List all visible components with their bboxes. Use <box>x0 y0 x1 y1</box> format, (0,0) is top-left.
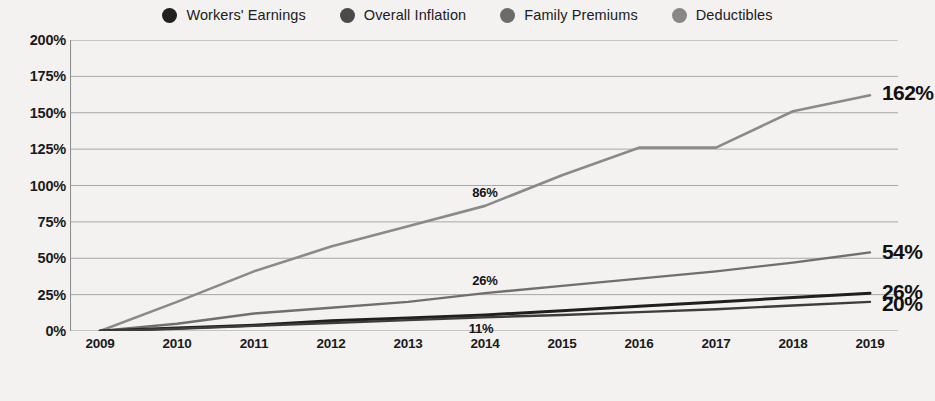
data-annotation: 26% <box>472 273 497 288</box>
x-axis-tick-label: 2011 <box>240 336 269 351</box>
legend-label: Workers' Earnings <box>186 7 305 23</box>
series-end-label: 20% <box>882 292 922 316</box>
y-axis-tick-label: 25% <box>4 287 66 303</box>
legend-dot-icon <box>672 8 687 23</box>
x-axis-tick-label: 2017 <box>701 336 730 351</box>
legend-label: Family Premiums <box>524 7 637 23</box>
x-axis-tick-label: 2016 <box>624 336 653 351</box>
legend-item-overall-inflation[interactable]: Overall Inflation <box>340 7 466 23</box>
data-annotation: 11% <box>469 320 494 335</box>
x-axis-tick-label: 2012 <box>316 336 345 351</box>
legend-item-workers-earnings[interactable]: Workers' Earnings <box>162 7 305 23</box>
series-line-family-premiums <box>100 252 870 331</box>
legend-dot-icon <box>340 8 355 23</box>
y-axis-tick-label: 175% <box>4 68 66 84</box>
chart-container: Workers' Earnings Overall Inflation Fami… <box>0 0 935 401</box>
x-axis-tick-label: 2014 <box>470 336 499 351</box>
legend-dot-icon <box>500 8 515 23</box>
series-end-label: 162% <box>882 81 933 105</box>
chart-legend: Workers' Earnings Overall Inflation Fami… <box>0 0 935 30</box>
x-axis-tick-label: 2019 <box>855 336 884 351</box>
legend-item-family-premiums[interactable]: Family Premiums <box>500 7 637 23</box>
y-axis-tick-label: 75% <box>4 214 66 230</box>
x-axis-tick-label: 2013 <box>393 336 422 351</box>
legend-item-deductibles[interactable]: Deductibles <box>672 7 773 23</box>
series-end-label: 54% <box>882 240 922 264</box>
x-axis-tick-label: 2018 <box>778 336 807 351</box>
legend-label: Overall Inflation <box>364 7 466 23</box>
data-annotation: 86% <box>472 184 497 199</box>
x-axis-tick-label: 2010 <box>162 336 191 351</box>
y-axis-tick-label: 50% <box>4 250 66 266</box>
y-axis-tick-label: 150% <box>4 105 66 121</box>
y-axis: 200%175%150%125%100%75%50%25%0% <box>0 0 66 401</box>
series-line-deductibles <box>100 95 870 331</box>
y-axis-tick-label: 200% <box>4 32 66 48</box>
x-axis-tick-label: 2009 <box>85 336 114 351</box>
y-axis-tick-label: 0% <box>4 323 66 339</box>
x-axis: 2009201020112012201320142015201620172018… <box>70 336 898 362</box>
legend-dot-icon <box>162 8 177 23</box>
legend-label: Deductibles <box>696 7 773 23</box>
x-axis-tick-label: 2015 <box>547 336 576 351</box>
y-axis-tick-label: 125% <box>4 141 66 157</box>
y-axis-tick-label: 100% <box>4 178 66 194</box>
